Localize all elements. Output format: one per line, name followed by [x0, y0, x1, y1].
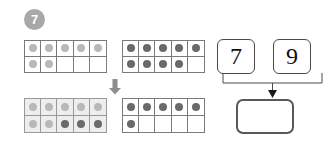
ten-frame-cell	[123, 41, 139, 57]
counter-dot-dark	[127, 103, 135, 111]
ten-frame-cell	[90, 116, 106, 133]
ten-frame-cell	[155, 57, 171, 73]
answer-input-box[interactable]	[236, 99, 294, 134]
ten-frame-cell	[57, 116, 73, 133]
counter-dot-light	[77, 103, 85, 111]
ten-frame-cell	[57, 41, 73, 57]
counter-dot-dark	[127, 44, 135, 52]
counter-dot-dark	[143, 44, 151, 52]
ten-frame-cell	[155, 41, 171, 57]
number-card-addend-2: 9	[273, 39, 311, 74]
ten-frame-cell	[57, 57, 73, 73]
ten-frame-cell	[90, 41, 106, 57]
counter-dot-empty	[159, 120, 167, 128]
counter-dot-dark	[175, 44, 183, 52]
ten-frame-cell	[25, 116, 41, 133]
counter-dot-empty	[192, 120, 200, 128]
ten-frame-cell	[74, 41, 90, 57]
counter-dot-light	[45, 120, 53, 128]
counter-dot-light	[29, 103, 37, 111]
counter-dot-dark	[143, 103, 151, 111]
ten-frame-cell	[123, 116, 139, 133]
counter-dot-dark	[94, 120, 102, 128]
ten-frame-cell	[123, 57, 139, 73]
question-number-badge: 7	[24, 9, 45, 30]
number-card-addend-1: 7	[217, 39, 255, 74]
ten-frame-cell	[25, 57, 41, 73]
counter-dot-light	[61, 103, 69, 111]
ten-frame-top-left	[24, 40, 107, 73]
bracket-down-arrow-icon	[215, 73, 330, 99]
counter-dot-dark	[159, 103, 167, 111]
ten-frame-cell	[139, 41, 155, 57]
counter-dot-dark	[192, 44, 200, 52]
ten-frame-cell	[172, 57, 188, 73]
ten-frame-cell	[90, 99, 106, 116]
ten-frame-cell	[188, 57, 204, 73]
ten-frame-cell	[172, 116, 188, 133]
ten-frame-cell	[57, 99, 73, 116]
ten-frame-bottom-right	[122, 98, 205, 133]
counter-dot-dark	[61, 120, 69, 128]
ten-frame-cell	[41, 116, 57, 133]
counter-dot-empty	[175, 120, 183, 128]
ten-frame-cell	[41, 99, 57, 116]
ten-frame-cell	[41, 41, 57, 57]
counter-dot-empty	[77, 60, 85, 68]
counter-dot-dark	[127, 120, 135, 128]
counter-dot-dark	[143, 60, 151, 68]
counter-dot-dark	[77, 120, 85, 128]
ten-frame-cell	[41, 57, 57, 73]
ten-frame-cell	[155, 99, 171, 116]
counter-dot-empty	[143, 120, 151, 128]
ten-frame-cell	[74, 99, 90, 116]
ten-frame-cell	[139, 99, 155, 116]
counter-dot-dark	[159, 44, 167, 52]
counter-dot-light	[45, 44, 53, 52]
counter-dot-light	[45, 60, 53, 68]
counter-dot-light	[29, 60, 37, 68]
counter-dot-dark	[159, 60, 167, 68]
counter-dot-light	[77, 44, 85, 52]
counter-dot-dark	[175, 60, 183, 68]
counter-dot-dark	[175, 103, 183, 111]
ten-frame-cell	[25, 41, 41, 57]
counter-dot-light	[94, 44, 102, 52]
ten-frame-cell	[139, 116, 155, 133]
counter-dot-light	[29, 120, 37, 128]
ten-frame-cell	[139, 57, 155, 73]
counter-dot-dark	[192, 103, 200, 111]
ten-frame-cell	[188, 41, 204, 57]
ten-frame-bottom-left	[24, 98, 107, 133]
counter-dot-empty	[61, 60, 69, 68]
ten-frame-cell	[25, 99, 41, 116]
counter-dot-empty	[94, 60, 102, 68]
counter-dot-dark	[127, 60, 135, 68]
counter-dot-light	[45, 103, 53, 111]
ten-frame-cell	[188, 116, 204, 133]
counter-dot-light	[29, 44, 37, 52]
ten-frame-cell	[74, 57, 90, 73]
ten-frame-cell	[188, 99, 204, 116]
counter-dot-empty	[192, 60, 200, 68]
ten-frame-cell	[155, 116, 171, 133]
ten-frame-cell	[74, 116, 90, 133]
ten-frame-top-right	[122, 40, 205, 73]
counter-dot-light	[61, 44, 69, 52]
counter-dot-light	[94, 103, 102, 111]
ten-frame-cell	[90, 57, 106, 73]
ten-frame-cell	[172, 41, 188, 57]
ten-frame-cell	[172, 99, 188, 116]
ten-frame-cell	[123, 99, 139, 116]
down-arrow-icon	[108, 79, 122, 95]
